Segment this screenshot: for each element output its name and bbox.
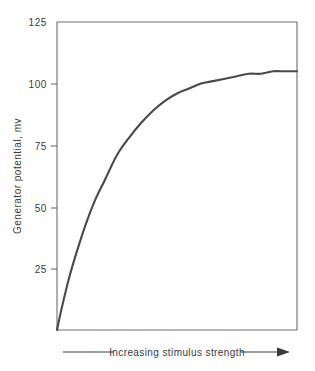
chart-background (0, 0, 315, 371)
y-axis-title: Generator potential, mv (12, 118, 23, 234)
y-tick-label-25: 25 (35, 264, 47, 275)
x-annotation-label: Increasing stimulus strength (109, 347, 245, 358)
y-tick-label-125: 125 (29, 17, 48, 28)
y-tick-label-75: 75 (35, 141, 47, 152)
chart-figure: 125 100 75 50 25 Generator potential, mv… (0, 0, 315, 371)
y-tick-label-100: 100 (29, 79, 48, 90)
y-tick-label-50: 50 (35, 203, 47, 214)
generator-potential-line-chart: 125 100 75 50 25 Generator potential, mv… (0, 0, 315, 371)
